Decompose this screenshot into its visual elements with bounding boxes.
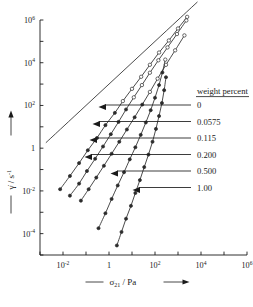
x-axis-title-text: σ21 / Pa (110, 277, 137, 288)
data-point-open (157, 51, 160, 54)
data-point-open (185, 19, 188, 22)
data-point-filled (163, 89, 166, 92)
data-point-filled (118, 140, 121, 143)
leader-arrow-head (111, 171, 119, 177)
data-curves (46, 2, 198, 247)
data-point-filled (79, 199, 82, 202)
series-0.115 (68, 19, 188, 197)
data-point-filled (87, 188, 90, 191)
data-point-filled (141, 103, 144, 106)
legend: weight percent00.05750.1150.2000.5001.00 (196, 86, 249, 193)
leader-arrow-head (85, 154, 93, 160)
legend-entry-1.00[interactable]: 1.00 (197, 183, 212, 193)
data-point-filled (104, 124, 107, 127)
tick-label: 1 (31, 144, 35, 153)
y-axis-title-rot: γ̇ / s-1 (6, 111, 16, 214)
data-point-filled (109, 133, 112, 136)
data-point-filled (158, 84, 161, 87)
tick-label: 10-4 (22, 228, 35, 238)
data-point-open (173, 49, 176, 52)
x-title-arrow-head (183, 279, 190, 284)
data-point-filled (138, 179, 141, 182)
data-point-filled (153, 96, 156, 99)
tick-label: 106 (242, 260, 253, 270)
leader-0.115 (90, 137, 192, 143)
data-point-open (185, 15, 188, 18)
data-point-filled (158, 114, 161, 117)
data-point-open (156, 77, 159, 80)
tick-label: 10-2 (22, 186, 35, 196)
data-point-filled (78, 182, 81, 185)
data-point-open (139, 75, 142, 78)
tick-label: 102 (150, 260, 161, 270)
data-point-open (166, 46, 169, 49)
data-point-filled (97, 227, 100, 230)
data-point-filled (59, 188, 62, 191)
data-point-filled (101, 145, 104, 148)
y-axis-title: γ̇ / s-1 (6, 111, 16, 214)
data-point-filled (151, 140, 154, 143)
leader-arrow-head (99, 104, 107, 110)
data-point-open (130, 87, 133, 90)
leader-0.200 (85, 154, 192, 160)
data-point-open (132, 96, 135, 99)
data-point-open (167, 39, 170, 42)
data-point-filled (116, 184, 119, 187)
data-point-filled (125, 128, 128, 131)
data-point-filled (120, 230, 123, 233)
data-point-filled (160, 101, 163, 104)
data-point-filled (113, 111, 116, 114)
data-point-filled (124, 108, 127, 111)
data-point-filled (68, 194, 71, 197)
leader-arrow-head (90, 137, 98, 143)
data-point-filled (102, 164, 105, 167)
data-point-filled (104, 212, 107, 215)
leader-line (105, 105, 191, 107)
leader-arrow-head (93, 121, 101, 127)
y-title-arrow-head (8, 111, 13, 118)
legend-header: weight percent (197, 86, 248, 96)
data-point-filled (154, 127, 157, 130)
legend-leader-lines (85, 104, 192, 193)
data-point-filled (94, 157, 97, 160)
figure-container: 10-21102104106106104102110-210-4σ21 / Pa… (0, 0, 253, 307)
data-point-filled (129, 204, 132, 207)
data-point-filled (133, 116, 136, 119)
data-point-open (148, 71, 151, 74)
data-point-open (175, 32, 178, 35)
data-point-open (148, 90, 151, 93)
data-point-open (183, 34, 186, 37)
data-point-open (157, 59, 160, 62)
data-point-filled (68, 174, 71, 177)
tick-label: 104 (24, 57, 35, 67)
data-point-filled (128, 158, 131, 161)
tick-label: 10-2 (57, 260, 70, 270)
x-tick-labels: 10-21102104106 (57, 260, 253, 270)
tick-label: 1 (107, 261, 111, 270)
data-point-filled (85, 170, 88, 173)
legend-entry-0.115[interactable]: 0.115 (197, 133, 216, 143)
data-point-filled (134, 191, 137, 194)
data-point-filled (115, 244, 118, 247)
series-0.0575 (59, 15, 189, 191)
data-point-filled (161, 71, 164, 74)
data-point-open (164, 58, 167, 61)
legend-entry-0.500[interactable]: 0.500 (197, 166, 216, 176)
series-0.200 (79, 34, 186, 202)
legend-entry-0.200[interactable]: 0.200 (197, 150, 216, 160)
leader-1.00 (133, 187, 192, 193)
tick-label: 104 (196, 260, 207, 270)
data-point-filled (78, 162, 81, 165)
data-point-filled (139, 133, 142, 136)
x-axis-title: σ21 / Pa (86, 277, 190, 288)
leader-line (139, 188, 191, 191)
y-tick-labels: 106104102110-210-4 (22, 15, 35, 239)
data-point-filled (110, 197, 113, 200)
data-point-open (148, 63, 151, 66)
data-point-open (140, 83, 143, 86)
tick-label: 106 (24, 15, 35, 25)
data-point-filled (143, 166, 146, 169)
leader-0 (99, 104, 192, 110)
legend-entry-0.0575[interactable]: 0.0575 (197, 117, 221, 127)
legend-entry-0[interactable]: 0 (197, 100, 201, 110)
